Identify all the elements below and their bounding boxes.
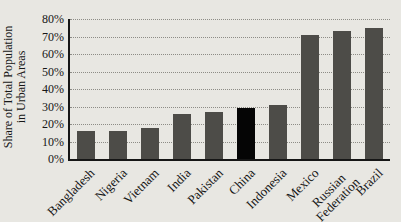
- y-axis-title: Share of Total Population in Urban Areas: [2, 2, 28, 172]
- bar-vietnam: [141, 128, 159, 160]
- gridline-80: [70, 19, 390, 20]
- plot-area: [68, 19, 390, 161]
- y-axis-title-line2: in Urban Areas: [15, 2, 28, 172]
- bar-russian-federation: [333, 31, 351, 159]
- bar-india: [173, 114, 191, 160]
- x-label-brazil: Brazil: [354, 166, 386, 198]
- x-label-bangladesh: Bangladesh: [45, 166, 97, 218]
- y-tick-50: 50%: [42, 65, 64, 79]
- y-tick-30: 30%: [42, 100, 64, 114]
- y-tick-80: 80%: [42, 12, 64, 26]
- bar-indonesia: [269, 105, 287, 159]
- y-tick-70: 70%: [42, 30, 64, 44]
- chart-stage: Share of Total Population in Urban Areas…: [0, 0, 401, 222]
- bar-bangladesh: [77, 131, 95, 159]
- y-tick-0: 0%: [48, 152, 64, 166]
- y-tick-20: 20%: [42, 117, 64, 131]
- y-tick-10: 10%: [42, 135, 64, 149]
- y-tick-60: 60%: [42, 47, 64, 61]
- bar-brazil: [365, 28, 383, 159]
- bar-china: [237, 108, 255, 159]
- bar-pakistan: [205, 112, 223, 159]
- y-tick-40: 40%: [42, 82, 64, 96]
- bar-mexico: [301, 35, 319, 159]
- bar-nigeria: [109, 131, 127, 159]
